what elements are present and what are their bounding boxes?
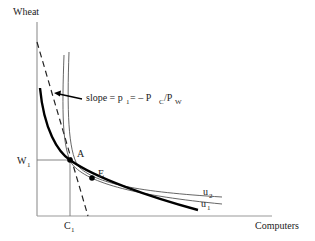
c1-label: C 1: [64, 220, 75, 234]
point-a-label: A: [77, 148, 85, 159]
svg-text:1: 1: [207, 204, 211, 212]
svg-text:W: W: [17, 155, 27, 166]
slope-arrow-shaft: [59, 94, 82, 99]
svg-text:1: 1: [27, 161, 31, 169]
svg-text:C: C: [64, 220, 71, 231]
svg-text:2: 2: [209, 192, 213, 200]
point-e: [89, 175, 95, 181]
indifference-curve-u1: [63, 55, 222, 204]
point-a: [67, 157, 73, 163]
indifference-curve-u2: [68, 52, 222, 197]
svg-text:/P: /P: [164, 92, 173, 103]
u1-label: u 1: [201, 198, 211, 212]
svg-text:1: 1: [71, 226, 75, 234]
svg-text:u: u: [203, 186, 208, 197]
slope-arrow-head: [54, 91, 61, 97]
point-e-label: E: [98, 168, 104, 179]
svg-text:= – P: = – P: [130, 92, 152, 103]
x-axis-label: Computers: [255, 220, 299, 231]
svg-text:u: u: [201, 198, 206, 209]
trade-diagram: Wheat Computers W 1 C 1 A E u 2 u 1 slop…: [0, 0, 315, 241]
production-possibility-frontier: [40, 88, 198, 210]
slope-annotation: slope = p 1 = – P C /P W: [86, 92, 182, 106]
price-line-dashed: [37, 42, 88, 216]
svg-text:slope = p: slope = p: [86, 92, 123, 103]
svg-text:W: W: [175, 98, 182, 106]
y-axis-label: Wheat: [13, 6, 39, 17]
w1-label: W 1: [17, 155, 31, 169]
